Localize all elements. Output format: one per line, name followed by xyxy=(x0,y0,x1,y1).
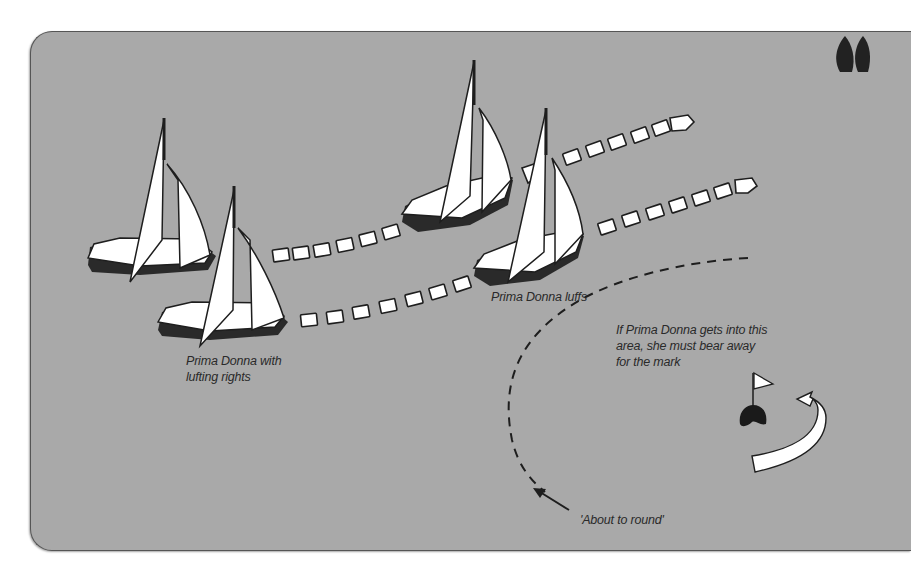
label-line: 'About to round' xyxy=(580,512,664,528)
track-lower-left xyxy=(300,276,471,327)
label-line: Prima Donna luffs xyxy=(491,289,587,305)
label-prima-donna-with-rights: Prima Donna with lufting rights xyxy=(186,353,281,385)
label-line: If Prima Donna gets into this xyxy=(616,322,767,338)
track-upper-right xyxy=(522,115,694,183)
label-bear-away: If Prima Donna gets into this area, she … xyxy=(616,322,767,370)
label-line: Prima Donna with xyxy=(186,353,281,369)
boat-back-right xyxy=(402,60,513,232)
label-about-to-round: 'About to round' xyxy=(580,512,664,528)
track-lower-right xyxy=(598,178,757,235)
buoy-with-flag-icon xyxy=(740,373,773,426)
label-prima-donna-luffs: Prima Donna luffs xyxy=(491,289,587,305)
boat-back-left xyxy=(88,118,216,282)
label-line: lufting rights xyxy=(186,369,281,385)
label-line: for the mark xyxy=(616,354,767,370)
curved-arrow-icon xyxy=(752,386,826,472)
pointer-arrow-icon xyxy=(533,488,569,510)
label-line: area, she must bear away xyxy=(616,338,767,354)
track-upper-left xyxy=(272,224,400,262)
double-quote-icon xyxy=(836,36,870,72)
